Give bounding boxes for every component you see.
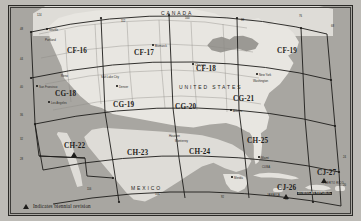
city-label-monterrey: Monterrey <box>175 139 188 143</box>
lon-tick-88: 88 <box>241 19 244 22</box>
legend-label: Indicates biennial revision <box>33 203 91 209</box>
city-label-washington: Washington <box>253 79 268 83</box>
city-dot-miami <box>258 156 260 158</box>
city-label-reno: Reno <box>61 74 68 78</box>
triangle-marker-icon <box>23 204 29 209</box>
city-label-merida: Merida <box>234 176 243 180</box>
lat-tick-20: 20 <box>343 184 346 187</box>
chart-cell-ch-24[interactable]: CH-24 <box>189 148 210 156</box>
city-label-seattle: Seattle <box>49 28 58 32</box>
city-label-atlanta: Atlanta <box>233 109 242 113</box>
lat-tick-32: 32 <box>20 138 23 141</box>
chart-cell-cj-27[interactable]: CJ-27 <box>317 169 336 177</box>
lon-tick-100: 100 <box>185 17 189 20</box>
island-label-jamaica: JAMAICA <box>267 194 280 197</box>
lon-tick-92: 92 <box>221 196 224 199</box>
chart-cell-cf-17[interactable]: CF-17 <box>134 49 154 57</box>
lat-tick-36: 36 <box>20 114 23 117</box>
chart-cell-cg-18[interactable]: CG-18 <box>55 90 76 98</box>
chart-cell-ch-25[interactable]: CH-25 <box>247 137 268 145</box>
chart-cell-cg-20[interactable]: CG-20 <box>175 103 196 111</box>
lat-tick-48: 48 <box>20 28 23 31</box>
city-label-denver: Denver <box>119 85 128 89</box>
city-dot-los-angeles <box>48 101 50 103</box>
city-label-new-york: New York <box>259 73 271 77</box>
chart-cell-cg-21[interactable]: CG-21 <box>233 95 254 103</box>
city-label-salt-lake-city: Salt Lake City <box>101 75 119 79</box>
city-dot-san-francisco <box>36 85 38 87</box>
city-label-los-angeles: Los Angeles <box>51 101 67 105</box>
city-dot-seattle <box>46 28 48 30</box>
chart-cell-cf-16[interactable]: CF-16 <box>67 47 87 55</box>
city-label-san-francisco: San Francisco <box>39 85 57 89</box>
lon-tick-116: 116 <box>87 188 91 191</box>
chart-cell-ch-22[interactable]: CH-22 <box>64 142 85 150</box>
city-dot-chicago <box>192 63 194 65</box>
lon-tick-112: 112 <box>121 20 125 23</box>
island-label-cuba: CUBA <box>262 166 270 169</box>
lon-tick-68: 68 <box>331 25 334 28</box>
city-dot-denver <box>116 85 118 87</box>
city-label-portland: Portland <box>45 38 56 42</box>
lat-tick-24: 24 <box>343 156 346 159</box>
island-label-dominican-republic: DOMINICAN REPUBLIC <box>297 192 332 195</box>
city-label-bismarck: Bismarck <box>155 44 167 48</box>
map-screenshot: CANADA UNITED STATES MEXICO CF-16 CF-17 … <box>0 0 361 221</box>
chart-cell-cg-19[interactable]: CG-19 <box>113 101 134 109</box>
country-label-mexico: MEXICO <box>131 185 162 191</box>
island-label-puerto-rico: PUERTO RICO <box>323 182 344 185</box>
map-frame: CANADA UNITED STATES MEXICO CF-16 CF-17 … <box>8 5 353 216</box>
city-label-houston: Houston <box>169 134 180 138</box>
city-label-chicago: Chicago <box>195 63 206 67</box>
lon-tick-76: 76 <box>299 15 302 18</box>
city-dot-new-york <box>256 73 258 75</box>
chart-grid-lines <box>9 6 353 216</box>
city-label-miami: Miami <box>261 156 269 160</box>
city-dot-bismarck <box>152 44 154 46</box>
chart-cell-cf-19[interactable]: CF-19 <box>277 47 297 55</box>
chart-cell-cj-26[interactable]: CJ-26 <box>277 184 296 192</box>
map-legend: Indicates biennial revision <box>23 203 91 209</box>
city-dot-atlanta <box>230 109 232 111</box>
lon-tick-80: 80 <box>285 198 288 201</box>
lat-tick-44: 44 <box>20 58 23 61</box>
city-dot-merida <box>231 176 233 178</box>
lat-tick-40: 40 <box>20 86 23 89</box>
lat-tick-28: 28 <box>20 158 23 161</box>
chart-cell-ch-23[interactable]: CH-23 <box>127 149 148 157</box>
lon-tick-124: 124 <box>37 14 41 17</box>
revision-marker-ch-22 <box>71 152 77 157</box>
country-label-canada: CANADA <box>161 10 193 16</box>
lon-tick-104: 104 <box>155 193 159 196</box>
country-label-united-states: UNITED STATES <box>179 84 242 90</box>
